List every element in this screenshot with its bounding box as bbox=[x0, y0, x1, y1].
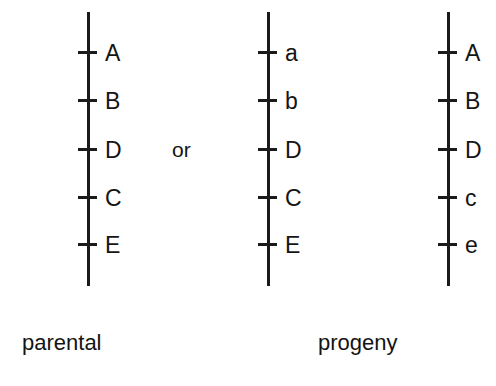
locus-label: E bbox=[285, 232, 300, 258]
chromosome-progeny-2: A B D c e bbox=[360, 0, 480, 386]
locus-label: B bbox=[465, 88, 480, 114]
locus-tick-icon bbox=[258, 51, 277, 54]
locus-tick-icon bbox=[438, 148, 457, 151]
locus-tick-icon bbox=[258, 196, 277, 199]
locus-tick-icon bbox=[78, 99, 97, 102]
linkage-map-figure: A B D C E a b D bbox=[0, 0, 496, 386]
locus-tick-icon bbox=[78, 148, 97, 151]
locus-tick-icon bbox=[78, 51, 97, 54]
caption-progeny: progeny bbox=[318, 330, 398, 356]
locus-label: b bbox=[285, 88, 298, 114]
locus-label: E bbox=[105, 232, 120, 258]
locus-label: D bbox=[285, 137, 302, 163]
locus-tick-icon bbox=[258, 243, 277, 246]
chromosome-progeny-1: a b D C E bbox=[180, 0, 300, 386]
locus-label: A bbox=[105, 40, 120, 66]
locus-tick-icon bbox=[438, 196, 457, 199]
locus-tick-icon bbox=[438, 51, 457, 54]
locus-label: B bbox=[105, 88, 120, 114]
caption-parental: parental bbox=[22, 330, 102, 356]
locus-tick-icon bbox=[438, 243, 457, 246]
locus-label: D bbox=[105, 137, 122, 163]
chromosome-parental: A B D C E bbox=[0, 0, 120, 386]
locus-tick-icon bbox=[78, 243, 97, 246]
locus-label: C bbox=[105, 185, 122, 211]
locus-label: e bbox=[465, 232, 478, 258]
locus-tick-icon bbox=[258, 99, 277, 102]
conjunction-or: or bbox=[172, 138, 191, 162]
locus-label: a bbox=[285, 40, 298, 66]
locus-label: c bbox=[465, 185, 477, 211]
locus-tick-icon bbox=[78, 196, 97, 199]
locus-label: A bbox=[465, 40, 480, 66]
locus-tick-icon bbox=[258, 148, 277, 151]
locus-label: D bbox=[465, 137, 482, 163]
locus-tick-icon bbox=[438, 99, 457, 102]
locus-label: C bbox=[285, 185, 302, 211]
